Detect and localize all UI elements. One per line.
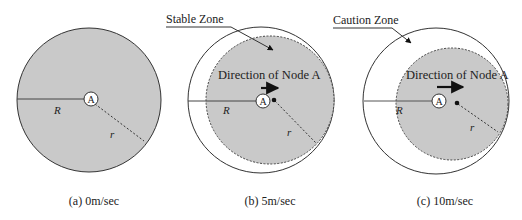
R-label: R	[395, 104, 403, 116]
caption-a: (a) 0m/sec	[69, 194, 119, 208]
node-a-label: A	[435, 96, 443, 107]
r-label: r	[470, 121, 475, 133]
panel-b: A Direction of Node A R r Stable Zone (b…	[166, 12, 334, 208]
zone-callout: Caution Zone	[333, 13, 399, 27]
direction-label: Direction of Node A	[406, 68, 508, 82]
caption-c: (c) 10m/sec	[417, 194, 473, 208]
zone-center-dot	[455, 101, 460, 106]
stable-zone-circle	[396, 48, 508, 160]
diagram-canvas: A R r (a) 0m/sec A Direction of Node A R…	[0, 0, 522, 220]
panel-c: A Direction of Node A R r Caution Zone (…	[333, 13, 509, 208]
node-a-label: A	[259, 96, 267, 107]
zone-center-dot	[272, 98, 277, 103]
node-a-label: A	[87, 94, 95, 105]
R-label: R	[53, 104, 61, 116]
direction-label: Direction of Node A	[218, 68, 320, 82]
zone-callout: Stable Zone	[166, 12, 224, 26]
caption-b: (b) 5m/sec	[245, 194, 296, 208]
panel-a: A R r (a) 0m/sec	[17, 28, 161, 208]
r-label: r	[287, 126, 292, 138]
r-label: r	[110, 128, 115, 140]
R-label: R	[222, 104, 230, 116]
